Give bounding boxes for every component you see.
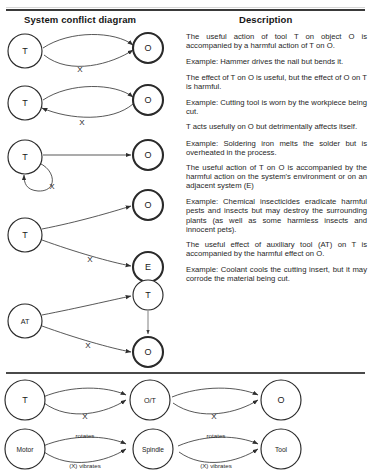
description-paragraph-9: The useful effect of auxiliary tool (AT)… <box>186 240 367 258</box>
chain-node-ot-label: O/T <box>144 396 157 405</box>
chain-vibrates-edge-2 <box>179 449 258 462</box>
harmful-x-label-1: X <box>77 65 83 74</box>
chain-vibrates-label-2: (X) vibrates <box>200 462 232 469</box>
harmful-x-label-5: X <box>85 341 91 350</box>
harmful-x-label-4: X <box>87 255 93 264</box>
useful-edge-1 <box>43 34 133 48</box>
node-o-right-2-label: O <box>144 95 151 105</box>
diagram-conflict-5: X AT T O <box>8 280 163 367</box>
description-paragraph-1: The useful action of tool T on object O … <box>186 32 367 50</box>
harmful-x-label-3: X <box>49 182 55 191</box>
description-paragraph-6: Example: Soldering iron melts the solder… <box>186 139 367 157</box>
description-column: The useful action of tool T on object O … <box>186 32 367 284</box>
node-o-right-1-label: O <box>144 43 151 53</box>
useful-edge-2 <box>43 86 133 100</box>
description-paragraph-5: T acts usefully on O but detrimentally a… <box>186 122 367 131</box>
node-o-right-3-label: O <box>144 150 151 160</box>
section-divider-rule <box>6 372 365 374</box>
chain-harmful-x-1: X <box>82 412 88 421</box>
chain-node-motor-label: Motor <box>17 446 35 453</box>
description-paragraph-4: Example: Cutting tool is worn by the wor… <box>186 98 367 116</box>
description-paragraph-8: Example: Chemical insecticides eradicate… <box>186 197 367 233</box>
chain-node-t-label: T <box>22 395 28 405</box>
diagram-conflict-3: X T O <box>8 140 163 191</box>
chain-vibrates-label-1: (X) vibrates <box>69 462 101 469</box>
node-t-left-4-label: T <box>22 230 28 240</box>
description-paragraph-10: Example: Coolant cools the cutting inser… <box>186 265 367 283</box>
chain-useful-edge-1 <box>43 388 126 397</box>
diagram-conflict-4: X T O E <box>8 190 163 282</box>
node-at-left-5-label: AT <box>21 317 30 326</box>
diagram-conflict-1: X T O <box>8 33 163 74</box>
diagram-column: X T O X T O X <box>0 0 186 375</box>
node-t-right-5-label: T <box>145 290 151 300</box>
node-t-left-2-label: T <box>22 98 28 108</box>
chain-rotates-label-1: rotates <box>76 432 95 439</box>
column-header-description: Description <box>239 14 292 25</box>
harmful-x-label-2: X <box>79 118 85 127</box>
description-paragraph-2: Example: Hammer drives the nail but bend… <box>186 57 367 66</box>
diagram-chain-abstract: X X T O/T O <box>5 380 301 421</box>
chain-node-o-label: O <box>277 395 284 405</box>
description-paragraph-7: The useful action of T on O is accompani… <box>186 163 367 190</box>
node-t-left-1-label: T <box>22 46 28 56</box>
harmful-edge-1 <box>44 50 133 66</box>
conflict-diagrams-svg: X T O X T O X <box>0 0 186 375</box>
chain-section: X X T O/T O rotates (X) vibrates rot <box>0 378 371 473</box>
node-e-right-4-label: E <box>145 262 151 272</box>
chain-vibrates-edge-1 <box>44 449 126 462</box>
harmful-edge-2 <box>42 104 133 117</box>
chain-node-tool-label: Tool <box>275 446 288 453</box>
diagram-chain-example: rotates (X) vibrates rotates (X) vibrate… <box>5 429 301 469</box>
node-o-right-4-label: O <box>144 200 151 210</box>
chain-rotates-label-2: rotates <box>207 432 226 439</box>
node-o-right-5-label: O <box>144 347 151 357</box>
diagram-conflict-2: X T O <box>8 85 163 127</box>
useful-edge-4 <box>42 206 131 229</box>
page-root: System conflict diagram Description X T <box>0 0 371 473</box>
chain-node-spindle-label: Spindle <box>142 446 164 454</box>
chain-harmful-x-2: X <box>211 412 217 421</box>
description-paragraph-3: The effect of T on O is useful, but the … <box>186 73 367 91</box>
chain-useful-edge-2 <box>172 388 258 397</box>
chain-diagrams-svg: X X T O/T O rotates (X) vibrates rot <box>0 378 371 473</box>
node-t-left-3-label: T <box>22 152 28 162</box>
useful-edge-5 <box>42 296 131 315</box>
